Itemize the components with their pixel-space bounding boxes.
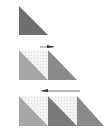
mid-triangle	[77, 96, 104, 126]
row-1	[19, 6, 48, 35]
row-2	[19, 45, 77, 80]
arrow-left-icon	[40, 89, 80, 92]
arrow-right-icon	[40, 45, 55, 48]
dark-triangle	[19, 6, 48, 35]
triangle-sequence-diagram	[0, 0, 104, 134]
mid-triangle	[48, 50, 77, 80]
row-3	[19, 89, 104, 126]
